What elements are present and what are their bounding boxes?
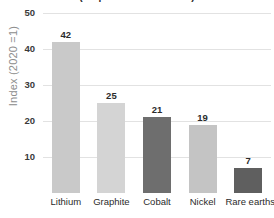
bar-value-label: 25 (97, 90, 125, 101)
x-axis-category-label: Rare earths (225, 196, 271, 207)
bar-slot: 7 (234, 13, 262, 193)
bar[interactable] (97, 103, 125, 193)
y-axis-tick-label: 30 (9, 79, 35, 90)
plot-area: 1020304050 422521197 (43, 13, 271, 193)
bar-value-label: 21 (143, 104, 171, 115)
chart-title: (output relative to 2020) (0, 0, 274, 2)
bar[interactable] (189, 125, 217, 193)
x-axis-category-label: Graphite (89, 196, 135, 207)
y-axis-tick-label: 20 (9, 115, 35, 126)
bar-slot: 25 (97, 13, 125, 193)
y-axis-title: Index (2020 =1) (7, 1, 19, 131)
bar-chart: (output relative to 2020) Index (2020 =1… (0, 0, 274, 218)
bar[interactable] (52, 42, 80, 193)
x-axis-category-label: Lithium (43, 196, 89, 207)
y-axis-tick-label: 40 (9, 43, 35, 54)
bar[interactable] (234, 168, 262, 193)
x-axis-category-label: Cobalt (134, 196, 180, 207)
bar-slot: 42 (52, 13, 80, 193)
y-axis-tick-label: 50 (9, 7, 35, 18)
x-axis-category-label: Nickel (180, 196, 226, 207)
y-axis-tick-label: 10 (9, 151, 35, 162)
bar-value-label: 19 (189, 112, 217, 123)
bar-slot: 19 (189, 13, 217, 193)
bar[interactable] (143, 117, 171, 193)
bar-slot: 21 (143, 13, 171, 193)
bar-value-label: 42 (52, 29, 80, 40)
bar-value-label: 7 (234, 155, 262, 166)
